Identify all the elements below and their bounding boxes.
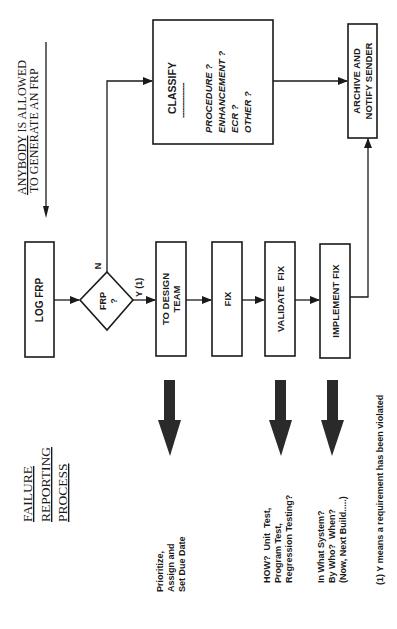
decision-label-line1: FRP bbox=[98, 292, 108, 310]
page-title: FAILURE REPORTING PROCESS bbox=[20, 447, 70, 522]
implement-fix-box: IMPLEMENT FIX bbox=[320, 244, 350, 358]
implement-where-line1: In What System? bbox=[316, 510, 326, 583]
validate-how-line3: Regression Testing? bbox=[284, 495, 294, 583]
note-down-arrowhead-icon bbox=[43, 206, 49, 218]
failure-reporting-diagram: ANYBODY IS ALLOWED TO GENERATE AN FRP CL… bbox=[0, 0, 397, 629]
classify-option-ecr: ECR ? bbox=[229, 104, 240, 133]
classify-option-procedure: PROCEDURE ? bbox=[203, 64, 214, 133]
decision-yes-label: Y (1) bbox=[134, 278, 144, 297]
title-line-reporting: REPORTING bbox=[38, 447, 53, 522]
implement-to-archive-arrow bbox=[350, 139, 368, 297]
archive-label-line2: NOTIFY SENDER bbox=[363, 42, 374, 119]
implement-where-line3: (Now, Next Build.....) bbox=[338, 496, 348, 583]
log-frp-label: LOG FRP bbox=[34, 277, 45, 322]
fix-box: FIX bbox=[212, 242, 242, 356]
archive-label-line1: ARCHIVE AND bbox=[351, 48, 362, 114]
validate-how-annotation: HOW? Unit Test, Program Test, Regression… bbox=[262, 495, 294, 583]
block-arrow-implement bbox=[321, 380, 344, 456]
classify-heading: CLASSIFY bbox=[166, 62, 178, 114]
to-design-label-line2: TEAM bbox=[171, 285, 182, 312]
block-arrow-prioritize bbox=[158, 380, 181, 456]
classify-divider: -------------- bbox=[178, 83, 188, 118]
log-frp-box: LOG FRP bbox=[25, 242, 54, 357]
validate-how-line1: HOW? Unit Test, bbox=[262, 508, 272, 583]
prioritize-line1: Prioritize, bbox=[155, 551, 165, 592]
generate-frp-text: TO GENERATE AN FRP bbox=[27, 68, 41, 193]
validate-fix-label: VALIDATE FIX bbox=[275, 265, 286, 332]
prioritize-line3: Set Due Date bbox=[177, 536, 187, 592]
implement-where-line2: By Who? When? bbox=[327, 509, 337, 583]
implement-fix-label: IMPLEMENT FIX bbox=[330, 264, 341, 338]
prioritize-annotation: Prioritize, Assign and Set Due Date bbox=[155, 536, 187, 592]
decision-no-label: N bbox=[93, 263, 103, 270]
validate-how-line2: Program Test, bbox=[273, 523, 283, 583]
validate-fix-box: VALIDATE FIX bbox=[265, 242, 295, 356]
classify-option-enhancement: ENHANCEMENT ? bbox=[216, 50, 227, 133]
frp-decision-diamond: FRP ? N Y (1) bbox=[80, 263, 144, 330]
anybody-note: ANYBODY IS ALLOWED TO GENERATE AN FRP bbox=[15, 42, 49, 218]
implement-where-annotation: In What System? By Who? When? (Now, Next… bbox=[316, 496, 348, 583]
archive-notify-box: ARCHIVE AND NOTIFY SENDER bbox=[348, 24, 377, 138]
no-branch-to-classify-arrow bbox=[107, 81, 152, 272]
classify-box: CLASSIFY -------------- PROCEDURE ? ENHA… bbox=[153, 20, 273, 144]
decision-label-line2: ? bbox=[109, 298, 119, 304]
fix-label: FIX bbox=[222, 291, 233, 306]
block-arrow-validate bbox=[269, 380, 292, 456]
prioritize-line2: Assign and bbox=[166, 543, 176, 592]
footnote: (1) Y means a requirement has been viola… bbox=[375, 395, 385, 585]
classify-option-other: OTHER ? bbox=[242, 91, 253, 133]
to-design-team-box: TO DESIGN TEAM bbox=[156, 242, 186, 356]
title-line-failure: FAILURE bbox=[20, 466, 35, 522]
to-design-label-line1: TO DESIGN bbox=[160, 273, 171, 325]
title-line-process: PROCESS bbox=[55, 463, 70, 522]
